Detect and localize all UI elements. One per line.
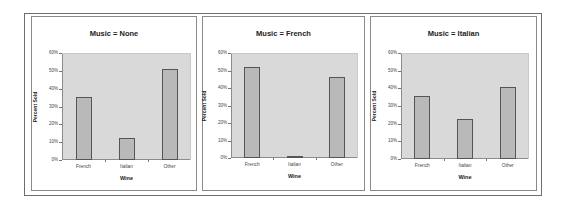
y-tick-mark — [398, 88, 401, 89]
y-tick-mark — [398, 159, 401, 160]
x-axis-title: Wine — [445, 174, 485, 180]
x-tick-label: Other — [150, 164, 190, 169]
x-tick-mark — [486, 159, 487, 161]
y-axis-title: Percent Sold — [32, 77, 38, 137]
y-tick-label: 10% — [209, 138, 227, 143]
x-axis-title: Wine — [107, 175, 147, 181]
y-tick-mark — [59, 71, 62, 72]
bar-other — [162, 69, 178, 160]
y-tick-label: 30% — [209, 103, 227, 108]
y-tick-mark — [398, 141, 401, 142]
y-tick-label: 20% — [379, 121, 397, 126]
chart-panel-1: Music = None0%10%20%30%40%50%60%FrenchIt… — [31, 16, 197, 191]
x-axis-title: Wine — [275, 173, 315, 179]
y-tick-mark — [228, 158, 231, 159]
y-tick-label: 0% — [209, 155, 227, 160]
x-tick-label: French — [64, 164, 104, 169]
y-tick-label: 10% — [379, 138, 397, 143]
y-tick-label: 50% — [40, 68, 58, 73]
y-tick-mark — [59, 53, 62, 54]
y-tick-mark — [59, 142, 62, 143]
y-tick-mark — [398, 71, 401, 72]
x-tick-label: Italian — [445, 163, 485, 168]
y-tick-mark — [228, 106, 231, 107]
x-tick-label: Other — [317, 162, 357, 167]
y-tick-label: 60% — [40, 50, 58, 55]
y-tick-label: 0% — [40, 157, 58, 162]
y-tick-mark — [228, 141, 231, 142]
x-tick-label: Other — [488, 163, 528, 168]
x-tick-mark — [105, 160, 106, 162]
x-tick-mark — [273, 158, 274, 160]
x-tick-label: French — [232, 162, 272, 167]
y-tick-mark — [398, 124, 401, 125]
y-tick-mark — [59, 124, 62, 125]
bar-french — [414, 96, 430, 159]
chart-panel-3: Music = Italian0%10%20%30%40%50%60%Frenc… — [370, 16, 537, 191]
y-tick-label: 50% — [209, 68, 227, 73]
x-tick-label: French — [402, 163, 442, 168]
y-tick-mark — [59, 107, 62, 108]
y-tick-mark — [228, 71, 231, 72]
bar-other — [500, 87, 516, 159]
y-tick-label: 20% — [209, 120, 227, 125]
y-tick-label: 0% — [379, 156, 397, 161]
bar-other — [329, 77, 345, 158]
y-tick-mark — [228, 88, 231, 89]
y-tick-label: 30% — [379, 103, 397, 108]
y-tick-label: 40% — [209, 85, 227, 90]
y-tick-mark — [59, 89, 62, 90]
bar-italian — [457, 119, 473, 159]
y-tick-label: 60% — [209, 50, 227, 55]
y-tick-label: 40% — [40, 86, 58, 91]
x-tick-mark — [316, 158, 317, 160]
y-tick-label: 20% — [40, 121, 58, 126]
y-tick-mark — [228, 53, 231, 54]
y-tick-label: 40% — [379, 85, 397, 90]
y-tick-mark — [398, 106, 401, 107]
y-tick-mark — [228, 123, 231, 124]
chart-panel-2: Music = French0%10%20%30%40%50%60%French… — [202, 16, 365, 191]
y-tick-label: 60% — [379, 50, 397, 55]
bar-italian — [287, 156, 303, 158]
y-tick-label: 10% — [40, 139, 58, 144]
x-tick-label: Italian — [107, 164, 147, 169]
chart-title: Music = None — [32, 29, 196, 38]
x-tick-mark — [148, 160, 149, 162]
y-tick-label: 30% — [40, 104, 58, 109]
y-tick-mark — [398, 53, 401, 54]
bar-french — [76, 97, 92, 160]
y-tick-mark — [59, 160, 62, 161]
chart-title: Music = French — [203, 29, 364, 38]
y-tick-label: 50% — [379, 68, 397, 73]
chart-title: Music = Italian — [371, 29, 536, 38]
y-axis-title: Percent Sold — [371, 76, 377, 136]
bar-italian — [119, 138, 135, 160]
x-tick-mark — [444, 159, 445, 161]
bar-french — [244, 67, 260, 158]
y-axis-title: Percent Sold — [201, 76, 207, 136]
x-tick-label: Italian — [275, 162, 315, 167]
